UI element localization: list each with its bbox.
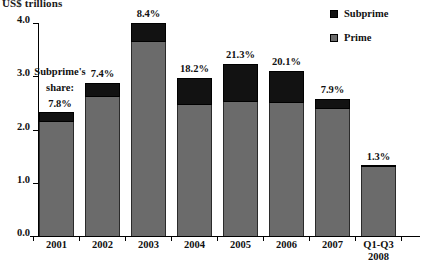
legend-label-subprime: Subprime [344,8,388,19]
bar-value-label: 20.1% [257,56,317,67]
bar-segment-prime[interactable] [223,102,258,236]
x-category-label-line2: 2008 [344,251,414,263]
bar-2003[interactable] [131,23,166,236]
y-tick-label: 4.0 [0,19,30,20]
bar-2005[interactable] [223,64,258,236]
bar-value-label: 8.4% [119,8,179,19]
bar-segment-subprime[interactable] [269,71,304,103]
x-category-label: Q1-Q32008 [344,239,414,263]
bar-segment-subprime[interactable] [131,23,166,42]
bar-segment-prime[interactable] [85,97,120,236]
annotation-line-2: share: [22,80,98,96]
annotation-share-value: 7.8% [22,96,98,112]
bar-segment-prime[interactable] [39,122,74,236]
bar-value-label: 7.9% [303,84,363,95]
axis-title: US$ trillions [2,0,62,9]
bar-segment-subprime[interactable] [315,99,350,109]
legend-swatch-subprime-icon [330,10,338,18]
bar-segment-prime[interactable] [269,103,304,236]
x-category-label-line1: Q1-Q3 [344,239,414,251]
bar-segment-prime[interactable] [177,105,212,236]
bar-segment-prime[interactable] [361,167,396,236]
bar-value-label: 1.3% [349,151,409,162]
bar-segment-subprime[interactable] [361,165,396,167]
bar-segment-prime[interactable] [131,42,166,236]
bar-segment-subprime[interactable] [223,64,258,102]
bar-value-label: 18.2% [165,63,225,74]
bar-segment-subprime[interactable] [39,112,74,122]
bar-segment-subprime[interactable] [177,78,212,105]
legend-swatch-prime-icon [330,34,338,42]
legend-item-subprime[interactable]: Subprime [330,8,388,19]
annotation-line-1: Subprime's [22,64,98,80]
bar-2006[interactable] [269,71,304,236]
legend: Subprime Prime [330,8,388,56]
bar-2001[interactable] [39,112,74,236]
y-tick-label: 2.0 [0,126,30,127]
y-tick-label: 1.0 [0,179,30,180]
subprime-share-annotation: Subprime's share: 7.8% [22,64,98,112]
legend-item-prime[interactable]: Prime [330,32,388,43]
bar-2004[interactable] [177,78,212,236]
legend-label-prime: Prime [344,32,371,43]
y-tick-label: 0.0 [0,232,30,233]
bar-Q1-Q3-2008[interactable] [361,166,396,236]
x-axis-line [30,236,420,237]
bar-segment-prime[interactable] [315,109,350,236]
bar-2007[interactable] [315,99,350,236]
